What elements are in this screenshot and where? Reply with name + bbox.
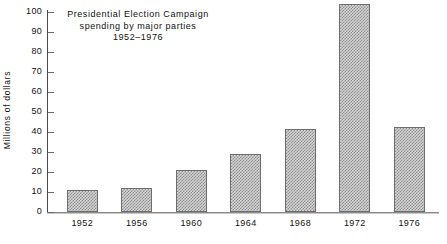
- bar: [121, 188, 152, 212]
- y-axis-tick: [48, 72, 54, 73]
- y-axis-label-text: Millions of dollars: [2, 71, 12, 150]
- y-axis-label: Millions of dollars: [0, 0, 14, 220]
- x-axis-tick-label: 1964: [216, 218, 276, 228]
- y-axis-tick: [48, 132, 54, 133]
- y-axis-tick: [48, 32, 54, 33]
- y-axis-tick-label: 100: [14, 6, 42, 16]
- bar: [230, 154, 261, 212]
- y-axis-tick: [48, 192, 54, 193]
- bar: [67, 190, 98, 212]
- y-axis-tick: [48, 172, 54, 173]
- bar: [176, 170, 207, 212]
- y-axis-tick-label: 90: [14, 26, 42, 36]
- chart-title: Presidential Election Campaignspending b…: [58, 9, 218, 44]
- x-axis-tick-label: 1960: [161, 218, 221, 228]
- x-axis-tick-label: 1972: [325, 218, 385, 228]
- bar: [339, 4, 370, 212]
- chart-figure: Millions of dollars 01020304050607080901…: [0, 0, 447, 244]
- y-axis-tick-label: 10: [14, 186, 42, 196]
- chart-title-line: spending by major parties: [58, 21, 218, 33]
- y-axis-tick: [48, 112, 54, 113]
- chart-title-line: Presidential Election Campaign: [58, 9, 218, 21]
- x-axis-tick-label: 1968: [270, 218, 330, 228]
- y-axis-tick-label: 0: [14, 206, 42, 216]
- y-axis-tick-label: 40: [14, 126, 42, 136]
- y-axis-tick: [48, 52, 54, 53]
- y-axis-tick-label: 70: [14, 66, 42, 76]
- chart-title-line: 1952–1976: [58, 32, 218, 44]
- y-axis-tick: [48, 92, 54, 93]
- y-axis-tick-label: 20: [14, 166, 42, 176]
- y-axis-tick: [48, 152, 54, 153]
- bar: [285, 129, 316, 212]
- bar: [394, 127, 425, 212]
- y-axis-tick-label: 60: [14, 86, 42, 96]
- y-axis-tick: [48, 212, 54, 213]
- x-axis-tick-label: 1976: [379, 218, 439, 228]
- x-axis-tick-label: 1956: [107, 218, 167, 228]
- y-axis-tick-label: 80: [14, 46, 42, 56]
- y-axis-tick-label: 30: [14, 146, 42, 156]
- x-axis-line-shadow: [47, 213, 439, 214]
- y-axis-tick: [48, 12, 54, 13]
- y-axis-tick-label: 50: [14, 106, 42, 116]
- x-axis-tick-label: 1952: [52, 218, 112, 228]
